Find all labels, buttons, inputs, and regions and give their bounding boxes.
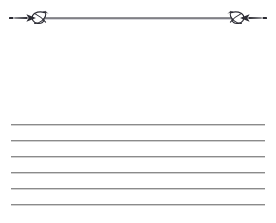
right-tip-dash-icon — [263, 17, 267, 19]
writing-line — [11, 156, 265, 157]
left-arrowhead-icon — [26, 14, 36, 22]
writing-line — [11, 188, 265, 189]
writing-line — [11, 204, 265, 205]
writing-line — [11, 140, 265, 141]
ornament-divider-svg — [0, 0, 276, 38]
writing-line — [11, 124, 265, 125]
ornament-divider — [0, 0, 276, 38]
ornament-right-group — [240, 14, 267, 22]
right-shaft-icon — [249, 17, 262, 19]
writing-line — [11, 172, 265, 173]
stationery-page — [0, 0, 276, 223]
left-tip-dash-icon — [9, 17, 13, 19]
ornament-center-rule — [45, 17, 231, 19]
left-shaft-icon — [14, 17, 27, 19]
right-arrowhead-icon — [240, 14, 250, 22]
